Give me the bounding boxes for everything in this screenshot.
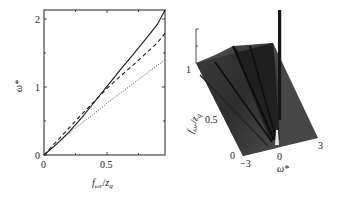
y-tick-label: 2 xyxy=(35,14,40,25)
y-tick-label: 0 xyxy=(230,150,235,161)
y-ticks xyxy=(44,19,165,155)
y-tick-label: 1 xyxy=(35,82,40,93)
solid-curve xyxy=(44,10,165,155)
y-tick-label: 0 xyxy=(35,150,40,161)
right-plot-3d: 1 0.5 0 −3 0 3 ω* fωr/zq xyxy=(184,10,323,174)
figure: 0 1 2 0 0.5 ω* fωr/zq xyxy=(0,0,341,199)
y-tick-label: 1 xyxy=(186,64,191,75)
x-ticks xyxy=(76,10,139,155)
left-plot: 0 1 2 0 0.5 ω* fωr/zq xyxy=(13,10,165,190)
x-tick-label: −3 xyxy=(240,158,251,169)
x-axis-label: ω* xyxy=(277,163,289,174)
x-tick-label: 0 xyxy=(277,151,282,162)
plot-frame xyxy=(44,10,165,155)
y-axis-label: fωr/zq xyxy=(184,111,203,135)
dashed-curve xyxy=(44,33,165,155)
dotted-curve xyxy=(44,60,165,155)
x-tick-label: 3 xyxy=(318,140,323,151)
y-tick-label: 0.5 xyxy=(205,114,218,125)
x-tick-label: 0.5 xyxy=(100,159,113,170)
y-axis-label: ω* xyxy=(13,80,24,92)
x-tick-label: 0 xyxy=(41,159,46,170)
x-axis-label: fωr/zq xyxy=(92,177,113,190)
surface-spike xyxy=(278,10,281,120)
